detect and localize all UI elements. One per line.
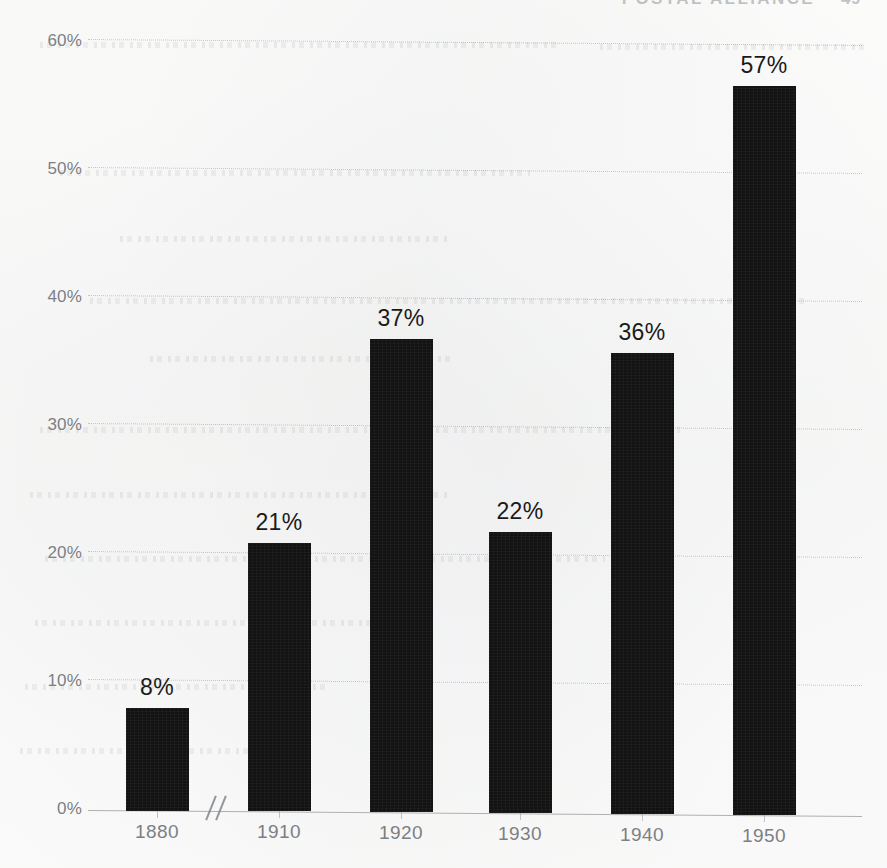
y-axis-tick-label: 50% bbox=[16, 159, 82, 179]
x-axis-tick-label-1940: 1940 bbox=[587, 824, 697, 846]
bar-1930 bbox=[489, 532, 552, 814]
bar-1920 bbox=[370, 339, 433, 813]
bar-1880 bbox=[126, 708, 189, 810]
x-axis-tick-label-1880: 1880 bbox=[102, 821, 212, 843]
x-axis-tick-label-1920: 1920 bbox=[346, 822, 456, 844]
bar-value-label-1930: 22% bbox=[460, 498, 580, 525]
bar-value-label-1940: 36% bbox=[582, 319, 702, 346]
bar-1950 bbox=[733, 86, 796, 816]
x-axis-tick-mark bbox=[157, 811, 158, 818]
bar-1940 bbox=[611, 353, 674, 814]
axis-break-icon bbox=[205, 795, 231, 825]
bar-1910 bbox=[248, 543, 311, 812]
x-axis-tick-label-1910: 1910 bbox=[224, 821, 334, 843]
y-axis-tick-label: 30% bbox=[16, 415, 82, 435]
y-axis-tick-label: 10% bbox=[16, 671, 82, 691]
x-axis-tick-label-1950: 1950 bbox=[709, 825, 819, 847]
y-axis-tick-label: 20% bbox=[16, 543, 82, 563]
x-axis-tick-mark bbox=[764, 815, 765, 822]
x-axis-tick-mark bbox=[279, 811, 280, 818]
y-axis-tick-label: 40% bbox=[16, 287, 82, 307]
x-axis-tick-mark bbox=[642, 814, 643, 821]
x-axis-tick-label-1930: 1930 bbox=[465, 823, 575, 845]
bar-chart: 0%10%20%30%40%50%60%8%188021%191037%1920… bbox=[0, 0, 887, 868]
y-axis-tick-label: 60% bbox=[16, 31, 82, 51]
x-axis-tick-mark bbox=[401, 812, 402, 819]
bar-value-label-1950: 57% bbox=[704, 52, 824, 79]
y-axis-tick-label: 0% bbox=[16, 799, 82, 819]
x-axis-tick-mark bbox=[520, 813, 521, 820]
bar-value-label-1880: 8% bbox=[97, 674, 217, 701]
gridline bbox=[88, 39, 862, 46]
chart-page: POSTAL ALLIANCE 49 0%10%20%30%40%50%60%8… bbox=[0, 0, 887, 868]
bar-value-label-1910: 21% bbox=[219, 509, 339, 536]
bar-value-label-1920: 37% bbox=[341, 305, 461, 332]
